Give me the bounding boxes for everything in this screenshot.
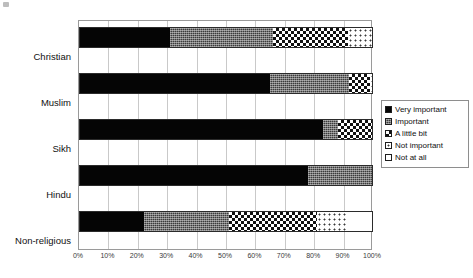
bar-segment-non-religious-not-at-all [348,211,373,232]
y-axis-category-labels: Christian Muslim Sikh Hindu Non-religiou… [0,20,73,250]
x-axis-tick-30: 30% [159,252,173,259]
bar-segment-sikh-a-little-bit [338,119,373,140]
legend-swatch-not-important-icon [385,142,392,149]
x-axis-tick-20: 20% [130,252,144,259]
bar-christian [79,27,371,48]
y-axis-label-non-religious: Non-religious [15,235,71,246]
x-axis-tick-60: 60% [247,252,261,259]
bar-sikh [79,119,371,140]
bar-segment-muslim-important [270,73,349,94]
x-axis-tick-80: 80% [306,252,320,259]
bar-segment-non-religious-very-important [79,211,144,232]
bar-segment-muslim-very-important [79,73,270,94]
x-axis-tick-90: 90% [336,252,350,259]
legend-label-not-at-all: Not at all [395,153,427,162]
legend-swatch-very-important-icon [385,106,392,113]
bar-segment-non-religious-important [144,211,229,232]
legend-item-important: Important [385,116,465,127]
bar-segment-non-religious-not-important [317,211,348,232]
bar-segment-muslim-a-little-bit [349,73,370,94]
bar-segment-sikh-important [323,119,338,140]
bar-segment-christian-a-little-bit [273,27,348,48]
x-axis-tick-50: 50% [218,252,232,259]
legend-swatch-a-little-bit-icon [385,130,392,137]
bar-muslim [79,73,371,94]
x-axis-tick-0: 0% [73,252,83,259]
bar-segment-sikh-very-important [79,119,323,140]
x-axis-tick-labels: 0%10%20%30%40%50%60%70%80%90%100% [78,252,372,266]
legend-item-not-at-all: Not at all [385,152,465,163]
legend-swatch-important-icon [385,118,392,125]
bar-segment-christian-very-important [79,27,170,48]
legend-item-very-important: Very important [385,104,465,115]
y-axis-label-hindu: Hindu [46,189,71,200]
chart-legend: Very importantImportantA little bitNot i… [381,100,469,168]
plot-area [78,20,372,250]
y-axis-label-sikh: Sikh [53,143,71,154]
legend-item-not-important: Not important [385,140,465,151]
bar-non-religious [79,211,371,232]
legend-label-a-little-bit: A little bit [395,129,427,138]
stacked-bar-chart: Christian Muslim Sikh Hindu Non-religiou… [0,0,473,278]
bar-segment-christian-important [170,27,273,48]
bar-segment-christian-not-important [348,27,373,48]
x-axis-tick-10: 10% [100,252,114,259]
scan-artifact-speck [3,2,9,7]
legend-swatch-not-at-all-icon [385,154,392,161]
legend-label-important: Important [395,117,429,126]
x-axis-tick-70: 70% [277,252,291,259]
bar-hindu [79,165,371,186]
legend-label-very-important: Very important [395,105,447,114]
bar-segment-muslim-not-at-all [372,73,373,94]
y-axis-label-christian: Christian [34,51,72,62]
x-axis-tick-100: 100% [363,252,381,259]
y-axis-label-muslim: Muslim [41,97,71,108]
bar-segment-hindu-important [308,165,373,186]
x-axis-tick-40: 40% [189,252,203,259]
bar-segment-hindu-very-important [79,165,308,186]
legend-item-a-little-bit: A little bit [385,128,465,139]
legend-label-not-important: Not important [395,141,443,150]
bar-segment-non-religious-a-little-bit [229,211,317,232]
